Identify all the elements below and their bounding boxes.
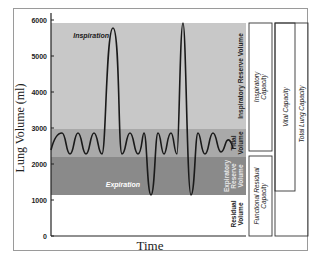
erv-label-2: Reserve <box>230 163 237 189</box>
frc-label-2: Capacity <box>260 183 268 209</box>
tick-3000: 3000 <box>31 125 47 132</box>
tick-6000: 6000 <box>31 17 47 24</box>
tick-2000: 2000 <box>31 161 47 168</box>
irv-label: Inspiratory Reserve Volume <box>237 33 245 119</box>
tidal-label-2: Volume <box>237 131 244 154</box>
inspiration-annotation: Inspiration <box>73 32 109 40</box>
tlc-label: Total Lung Capacity <box>298 85 306 143</box>
vc-label: Vital Capacity <box>282 86 290 126</box>
ic-label-2: Capacity <box>260 74 268 100</box>
erv-label-3: Volume <box>237 164 244 187</box>
tick-4000: 4000 <box>31 89 47 96</box>
rv-label-2: Volume <box>237 202 244 225</box>
y-axis-label: Lung Volume (ml) <box>13 84 27 173</box>
tidal-label-1: Tidal <box>230 135 237 150</box>
tick-1000: 1000 <box>31 197 47 204</box>
tick-5000: 5000 <box>31 53 47 60</box>
x-axis-label: Time <box>137 238 164 253</box>
expiration-annotation: Expiration <box>106 181 140 189</box>
lung-volume-chart: 0 1000 2000 3000 4000 5000 6000 Lung Vol… <box>0 0 318 261</box>
rv-label-1: Residual <box>230 200 237 227</box>
tick-0: 0 <box>43 233 47 240</box>
frc-label-1: Functional Residual <box>253 167 260 225</box>
